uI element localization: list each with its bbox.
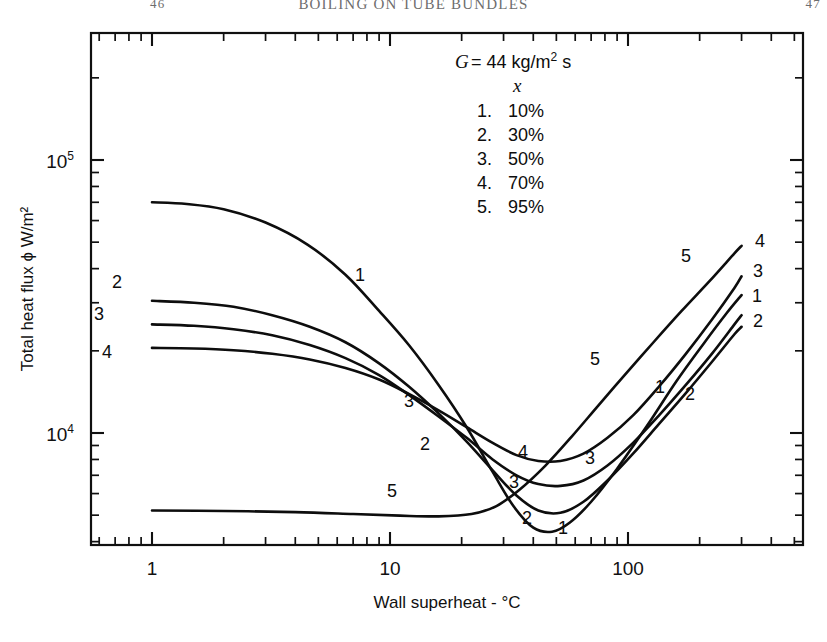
curve-label: 3 [585,448,595,468]
y-axis-title: Total heat flux ϕ W/m² [18,206,37,371]
legend-entry-index: 2. [477,125,492,145]
curve-label: 1 [558,518,568,538]
curve-label: 4 [755,231,765,251]
y-axis-ticks [91,78,803,542]
legend-entry-index: 5. [477,197,492,217]
curve-label: 1 [752,286,762,306]
legend-mass-flux-eq: = 44 kg/m [471,52,551,72]
curve-label: 2 [112,272,122,292]
y-tick-label-1e4: 104 [46,422,74,445]
curve-label: 2 [753,311,763,331]
chart-svg: 110100 105 104 Wall superheat - °C Total… [0,0,827,642]
y-tick-label-1e5: 105 [46,149,74,172]
curve-label: 5 [590,349,600,369]
x-axis-title: Wall superheat - °C [374,593,521,612]
curve-label: 4 [102,342,112,362]
curve-1 [152,202,742,532]
legend-mass-flux-symbol: G [455,51,469,72]
curve-2 [152,301,742,514]
chart-legend: G = 44 kg/m2 s x 1.10%2.30%3.50%4.70%5.9… [455,50,571,217]
legend-entry-index: 4. [477,173,492,193]
chart-figure: 110100 105 104 Wall superheat - °C Total… [0,0,827,642]
curve-label: 2 [522,508,532,528]
curve-label: 3 [509,472,519,492]
legend-rows: 1.10%2.30%3.50%4.70%5.95% [477,101,544,217]
curve-label: 2 [685,384,695,404]
chart-curves [152,202,742,532]
x-tick-label: 100 [612,558,644,579]
curve-label: 5 [387,481,397,501]
curve-4 [152,276,742,461]
legend-entry-index: 1. [477,101,492,121]
curve-label: 3 [753,261,763,281]
x-tick-label: 1 [147,558,158,579]
curve-label: 3 [94,304,104,324]
figure-page: 46 BOILING ON TUBE BUNDLES 47 110100 105… [0,0,827,642]
legend-entry-value: 10% [508,101,544,121]
x-axis-ticks [99,33,794,545]
legend-entry-value: 50% [508,149,544,169]
legend-entry-value: 70% [508,173,544,193]
legend-mass-flux-value: = 44 kg/m2 s [471,50,571,72]
y-axis-tick-labels: 105 104 [46,149,74,445]
curve-label: 4 [518,442,528,462]
curve-label: 1 [655,377,665,397]
legend-quality-symbol: x [512,75,522,96]
x-axis-tick-labels: 110100 [147,558,644,579]
curve-label: 1 [355,265,365,285]
curve-label: 2 [420,434,430,454]
curve-label: 3 [404,391,414,411]
curve-number-labels: 12343254321355124312 [94,231,765,538]
legend-entry-index: 3. [477,149,492,169]
legend-mass-flux-unit: s [562,52,571,72]
curve-5 [152,246,742,517]
x-tick-label: 10 [379,558,400,579]
legend-entry-value: 95% [508,197,544,217]
curve-label: 5 [681,246,691,266]
plot-frame [91,33,803,545]
legend-entry-value: 30% [508,125,544,145]
